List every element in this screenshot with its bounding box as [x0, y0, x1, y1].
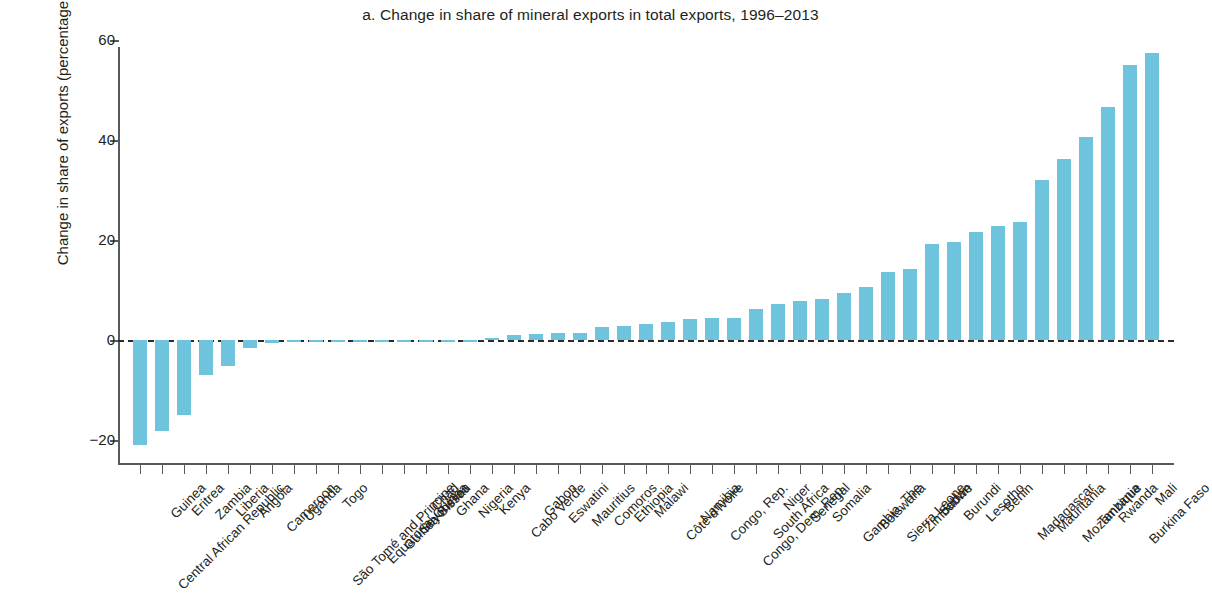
bar-series: [118, 40, 1174, 465]
x-tick: [624, 465, 625, 474]
x-tick-label: Mali: [1152, 480, 1180, 508]
bar: [1101, 107, 1115, 340]
x-tick: [294, 465, 295, 474]
y-tick-label: 20: [55, 231, 115, 248]
bar: [221, 340, 235, 366]
bar: [199, 340, 213, 375]
x-tick: [668, 465, 669, 474]
x-tick: [844, 465, 845, 474]
x-tick: [492, 465, 493, 474]
x-tick: [448, 465, 449, 474]
x-tick: [316, 465, 317, 474]
x-tick: [162, 465, 163, 474]
bar: [397, 340, 411, 342]
bar: [573, 333, 587, 341]
x-tick: [250, 465, 251, 474]
bar: [1079, 137, 1093, 340]
x-tick: [976, 465, 977, 474]
x-tick: [778, 465, 779, 474]
bar: [353, 340, 367, 342]
bar: [485, 338, 499, 341]
bar: [727, 318, 741, 341]
bar: [947, 242, 961, 340]
bar: [155, 340, 169, 431]
bar: [859, 287, 873, 341]
x-tick: [602, 465, 603, 474]
bar: [551, 333, 565, 340]
bar: [243, 340, 257, 348]
bar: [507, 335, 521, 341]
x-tick: [712, 465, 713, 474]
bar: [749, 309, 763, 341]
chart-title: a. Change in share of mineral exports in…: [0, 6, 1181, 24]
x-axis-labels: Central African RepublicGuineaEritreaZam…: [118, 476, 1174, 614]
bar: [793, 301, 807, 340]
x-tick: [932, 465, 933, 474]
x-tick: [1108, 465, 1109, 474]
x-tick: [426, 465, 427, 474]
y-tick-label: 60: [55, 31, 115, 48]
bar: [991, 226, 1005, 340]
plot-area: −200204060: [118, 40, 1174, 465]
bar: [969, 232, 983, 341]
x-tick: [1042, 465, 1043, 474]
x-tick: [800, 465, 801, 474]
x-tick: [360, 465, 361, 474]
bar: [287, 340, 301, 342]
x-tick: [1152, 465, 1153, 474]
x-tick: [272, 465, 273, 474]
bar: [1145, 53, 1159, 341]
bar: [595, 327, 609, 341]
x-tick: [690, 465, 691, 474]
bar: [265, 340, 279, 343]
y-tick-label: 40: [55, 131, 115, 148]
x-tick: [382, 465, 383, 474]
bar: [375, 340, 389, 342]
bar: [1123, 65, 1137, 340]
x-tick-label: Benin: [1001, 480, 1036, 515]
bar: [331, 340, 345, 342]
bar: [529, 334, 543, 340]
x-tick: [338, 465, 339, 474]
x-tick: [998, 465, 999, 474]
x-tick: [206, 465, 207, 474]
x-tick: [910, 465, 911, 474]
x-tick: [228, 465, 229, 474]
bar: [925, 244, 939, 341]
bar: [661, 322, 675, 340]
x-tick: [140, 465, 141, 474]
x-tick: [470, 465, 471, 474]
x-tick-label: Namibia: [697, 480, 742, 525]
x-axis-ticks: [118, 465, 1174, 475]
x-tick: [866, 465, 867, 474]
y-tick-label: 0: [55, 331, 115, 348]
bar: [1057, 159, 1071, 341]
x-tick: [558, 465, 559, 474]
bar: [705, 318, 719, 340]
bar: [419, 340, 433, 342]
bar: [1035, 180, 1049, 341]
x-tick-label: Togo: [339, 480, 370, 511]
x-tick: [1130, 465, 1131, 474]
bar: [1013, 222, 1027, 340]
x-tick: [954, 465, 955, 474]
bar: [463, 340, 477, 342]
bar: [837, 293, 851, 341]
x-tick: [580, 465, 581, 474]
x-tick: [1064, 465, 1065, 474]
x-tick: [888, 465, 889, 474]
x-tick: [1020, 465, 1021, 474]
x-tick: [756, 465, 757, 474]
bar: [771, 304, 785, 341]
bar: [815, 299, 829, 340]
x-tick: [734, 465, 735, 474]
x-tick: [1086, 465, 1087, 474]
x-tick: [646, 465, 647, 474]
x-tick: [514, 465, 515, 474]
bar: [133, 340, 147, 445]
x-tick: [184, 465, 185, 474]
x-tick: [822, 465, 823, 474]
bar: [441, 340, 455, 342]
x-tick: [536, 465, 537, 474]
